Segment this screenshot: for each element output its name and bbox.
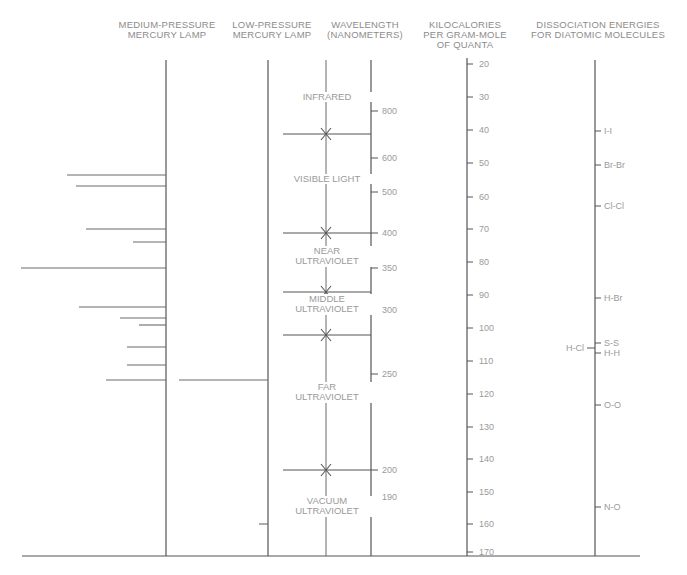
wavelength-tick-label: 190 — [382, 492, 397, 502]
energy-tick-label: 120 — [479, 389, 494, 399]
dissociation-label: O-O — [604, 400, 621, 410]
dissociation-label: I-I — [604, 126, 612, 136]
header-wavelength: WAVELENGTH (NANOMETERS) — [326, 20, 404, 40]
energy-tick-label: 40 — [479, 125, 489, 135]
wavelength-tick-label: 500 — [382, 187, 397, 197]
energy-tick-label: 60 — [479, 192, 489, 202]
energy-tick-label: 170 — [479, 547, 494, 557]
energy-tick-label: 90 — [479, 290, 489, 300]
header-kilocalories: KILOCALORIES PER GRAM-MOLE OF QUANTA — [420, 20, 510, 50]
dissociation-label: Cl-Cl — [604, 201, 624, 211]
energy-tick-label: 150 — [479, 487, 494, 497]
energy-tick-label: 30 — [479, 92, 489, 102]
dissociation-label: H-H — [604, 348, 620, 358]
spectral-region-label: NEAR ULTRAVIOLET — [276, 246, 378, 267]
wavelength-tick-label: 800 — [382, 106, 397, 116]
dissociation-label: H-Cl — [566, 343, 584, 353]
energy-tick-label: 130 — [479, 422, 494, 432]
photochemistry-diagram: MEDIUM-PRESSURE MERCURY LAMP LOW-PRESSUR… — [0, 0, 687, 575]
spectral-region-label: VACUUM ULTRAVIOLET — [276, 496, 378, 517]
spectral-region-label: MIDDLE ULTRAVIOLET — [276, 294, 378, 315]
header-medium-pressure-lamp: MEDIUM-PRESSURE MERCURY LAMP — [114, 20, 220, 40]
energy-tick-label: 160 — [479, 519, 494, 529]
energy-tick-label: 80 — [479, 257, 489, 267]
wavelength-tick-label: 200 — [382, 465, 397, 475]
wavelength-tick-label: 300 — [382, 305, 397, 315]
dissociation-label: H-Br — [604, 293, 623, 303]
spectral-region-label: VISIBLE LIGHT — [276, 174, 378, 185]
header-dissociation-energies: DISSOCIATION ENERGIES FOR DIATOMIC MOLEC… — [524, 20, 672, 40]
wavelength-tick-label: 400 — [382, 228, 397, 238]
wavelength-tick-label: 600 — [382, 153, 397, 163]
dissociation-label: N-O — [604, 502, 621, 512]
wavelength-tick-label: 250 — [382, 369, 397, 379]
energy-tick-label: 100 — [479, 323, 494, 333]
energy-tick-label: 20 — [479, 59, 489, 69]
energy-tick-label: 140 — [479, 454, 494, 464]
spectral-region-label: FAR ULTRAVIOLET — [276, 382, 378, 403]
diagram-lines — [0, 0, 687, 575]
wavelength-tick-label: 350 — [382, 263, 397, 273]
dissociation-label: S-S — [604, 338, 619, 348]
energy-tick-label: 70 — [479, 224, 489, 234]
energy-tick-label: 50 — [479, 158, 489, 168]
header-low-pressure-lamp: LOW-PRESSURE MERCURY LAMP — [224, 20, 320, 40]
dissociation-label: Br-Br — [604, 160, 625, 170]
spectral-region-label: INFRARED — [276, 92, 378, 103]
energy-tick-label: 110 — [479, 356, 493, 366]
